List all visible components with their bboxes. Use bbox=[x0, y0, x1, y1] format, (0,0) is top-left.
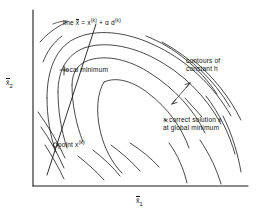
contour-loop-4 bbox=[104, 80, 189, 148]
contour-right-b bbox=[162, 42, 230, 107]
contour-bottom-b bbox=[200, 140, 221, 184]
point-xk-label-prefix: point x bbox=[58, 141, 78, 148]
contour-lowmid-c bbox=[111, 145, 140, 171]
contours-label-line1: contours of bbox=[186, 57, 220, 65]
contour-bottom-a bbox=[169, 143, 187, 183]
contour-lowmid-b bbox=[93, 150, 120, 176]
contours-label-line2: constant h bbox=[186, 65, 220, 73]
search-line-label-prefix: line bbox=[63, 19, 76, 26]
local-minimum-label: local minimum bbox=[64, 66, 108, 74]
contour-loop-2-tail bbox=[58, 92, 67, 148]
y-axis-label: x̄2 bbox=[6, 78, 13, 89]
contours-label: contours of constant h bbox=[186, 57, 220, 74]
search-line-label-sup2: (k) bbox=[115, 17, 121, 23]
search-line bbox=[47, 24, 96, 175]
contour-lowmid-d bbox=[130, 143, 159, 167]
correct-solution-label-line1: × correct solution x bbox=[163, 116, 222, 124]
contour-diagram-figure: line x̄ = x(k) + α d(k) local minimum co… bbox=[0, 0, 257, 216]
search-line-label: line x̄ = x(k) + α d(k) bbox=[63, 19, 121, 28]
contour-loop-4-tail bbox=[98, 82, 122, 173]
contour-lowmid-a bbox=[78, 156, 104, 180]
y-axis-label-sub: 2 bbox=[10, 83, 13, 89]
diagram-canvas bbox=[0, 0, 257, 216]
contour-lowleft-a bbox=[38, 112, 65, 158]
correct-solution-label: × correct solution x at global minimum bbox=[163, 116, 222, 133]
x-axis-label-sub: 1 bbox=[140, 201, 143, 207]
contour-spacing-arrowhead-lower bbox=[172, 100, 177, 105]
x-axis-label: x̄1 bbox=[136, 196, 143, 207]
point-xk-label-sup: (k) bbox=[78, 139, 84, 145]
point-xk-label: point x(k) bbox=[58, 141, 85, 149]
contour-spacing-arrowhead-upper bbox=[185, 83, 190, 88]
correct-solution-label-line2: at global minimum bbox=[163, 124, 222, 132]
search-line-label-eq: = x bbox=[79, 19, 90, 26]
search-line-label-plus: + α d bbox=[97, 19, 115, 26]
contour-outer-topleft-b bbox=[43, 36, 62, 62]
